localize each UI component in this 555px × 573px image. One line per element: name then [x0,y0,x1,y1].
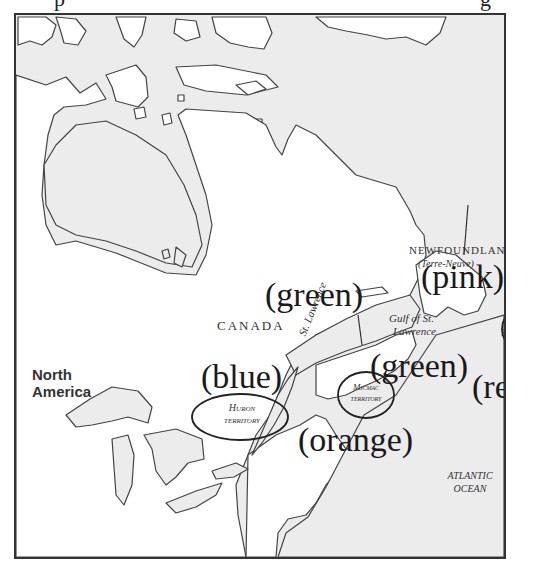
label-ocean: OCEAN [441,482,499,495]
islet [134,107,146,119]
label-gulf-of-st-lawrence: Gulf of St. Lawrence [389,312,436,338]
label-america: America [32,383,91,400]
islet [178,95,184,101]
label-north-america: North America [32,366,91,400]
label-atlantic-ocean: ATLANTIC OCEAN [441,469,499,495]
label-st-johns: St. John's [501,327,506,338]
title-glyph: g [480,0,491,12]
map-frame: NEWFOUNDLAND (Terre-Neuve) CANADA North … [14,13,506,559]
label-huron-territory-word: territory [212,414,272,426]
label-gulf-line1: Gulf of St. [389,312,436,325]
label-micmac-territory-word: territory [340,393,392,404]
annotation-pink: (pink) [421,260,504,294]
label-atlantic: ATLANTIC [441,469,499,482]
annotation-green-top: (green) [265,278,363,312]
title-fragment: p g [0,0,555,6]
label-newfoundland: NEWFOUNDLAND [409,244,506,256]
label-canada: CANADA [217,318,285,334]
arctic-island [174,19,200,41]
arctic-island [106,65,148,107]
annotation-blue: (blue) [201,360,282,394]
annotation-green-gulf: (green) [370,349,468,383]
arctic-island [18,17,56,45]
label-huron: Huron [212,402,272,414]
label-gulf-line2: Lawrence [389,325,436,338]
islet [162,113,172,125]
label-north: North [32,366,91,383]
annotation-red: (red) [472,370,506,404]
label-huron-territory: Huron territory [212,402,272,426]
arctic-island [212,17,272,49]
annotation-orange: (orange) [298,423,413,457]
arctic-island [56,17,86,45]
baffin-island [316,17,446,45]
lake-island [162,249,170,259]
title-glyph: p [54,0,65,12]
label-micmac-territory: Micmac territory [340,382,392,404]
arctic-island [116,17,146,47]
